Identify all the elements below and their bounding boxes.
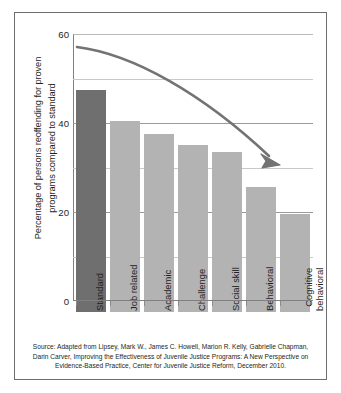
x-tick-1 [110,301,111,306]
y-tick-label-40: 40 [58,118,69,129]
y-tick-label-20: 20 [58,207,69,218]
gridline-40 [73,123,313,124]
x-axis-label-behavioral: Behavioral [265,267,276,311]
x-axis-label-cognitive-behavioral: Cognitivebehavioral [304,268,325,311]
plot-area: 0 20 40 60 Standard Job related Academic… [73,34,313,313]
y-axis-title: Percentage of persons reoffending for pr… [31,19,65,277]
source-line-2: Darin Carver, Improving the Effectivenes… [21,352,320,362]
x-axis-label-job-related: Job related [129,265,140,311]
y-tick-label-60: 60 [58,29,69,40]
gridline-50 [73,79,313,80]
x-axis-label-challenge: Challenge [197,269,208,311]
chart-figure: Percentage of persons reoffending for pr… [14,12,327,380]
source-note: Source: Adapted from Lipsey, Mark W., Ja… [21,342,320,371]
x-tick-4 [212,301,213,306]
x-axis-label-standard: Standard [95,273,106,311]
source-line-3: Evidence-Based Practice, Center for Juve… [21,361,320,371]
y-axis-title-line-1: Percentage of persons reoffending for pr… [33,57,43,240]
source-line-1: Source: Adapted from Lipsey, Mark W., Ja… [21,342,320,352]
x-tick-2 [144,301,145,306]
y-axis-title-line-2: programs compared to standard [47,83,57,212]
x-axis-label-cognitive-line-2: behavioral [314,268,325,311]
x-axis-label-social-skill: Social skill [231,267,242,311]
x-tick-0 [76,301,77,306]
x-tick-3 [178,301,179,306]
y-tick-label-0: 0 [64,296,69,307]
x-tick-5 [246,301,247,306]
x-axis-baseline [73,300,313,301]
x-axis-label-academic: Academic [163,270,174,311]
x-tick-6 [280,301,281,306]
